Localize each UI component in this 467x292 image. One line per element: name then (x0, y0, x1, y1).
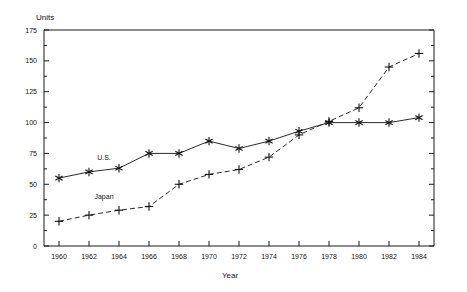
x-axis: 1960196219641966196819701972197419761978… (51, 241, 427, 260)
x-tick-label: 1966 (141, 253, 157, 260)
data-point-japan (265, 153, 273, 161)
y-tick-label: 150 (25, 57, 37, 64)
data-point-japan (85, 211, 93, 219)
series-annotation: U.S. (97, 154, 111, 161)
x-tick-label: 1980 (351, 253, 367, 260)
data-point-japan (115, 206, 123, 214)
x-tick-label: 1974 (261, 253, 277, 260)
series-annotation: Japan (94, 193, 113, 201)
y-tick-label: 50 (29, 181, 37, 188)
line-chart: Units 0255075100125150175 19601962196419… (0, 0, 467, 292)
y-tick-label: 175 (25, 27, 37, 34)
data-point-u-s (55, 174, 62, 182)
y-tick-label: 100 (25, 119, 37, 126)
data-point-japan (205, 170, 213, 178)
data-point-japan (175, 180, 183, 188)
x-tick-label: 1978 (321, 253, 337, 260)
data-point-japan (355, 104, 363, 112)
data-point-japan (385, 63, 393, 71)
x-tick-label: 1984 (411, 253, 427, 260)
data-point-japan (235, 165, 243, 173)
plot-frame (44, 30, 434, 246)
x-tick-label: 1962 (81, 253, 97, 260)
data-point-u-s (265, 137, 272, 145)
x-tick-label: 1960 (51, 253, 67, 260)
y-tick-label: 75 (29, 150, 37, 157)
y-tick-label: 125 (25, 88, 37, 95)
data-point-u-s (205, 137, 212, 145)
y-axis-title: Units (36, 13, 54, 22)
x-tick-label: 1970 (201, 253, 217, 260)
x-tick-label: 1972 (231, 253, 247, 260)
y-tick-label: 0 (33, 243, 37, 250)
x-tick-label: 1964 (111, 253, 127, 260)
data-point-japan (145, 202, 153, 210)
chart-container: Units 0255075100125150175 19601962196419… (0, 0, 467, 292)
x-tick-label: 1968 (171, 253, 187, 260)
x-tick-label: 1976 (291, 253, 307, 260)
y-tick-label: 25 (29, 212, 37, 219)
data-point-japan (55, 217, 63, 225)
x-axis-title: Year (222, 271, 239, 280)
x-tick-label: 1982 (381, 253, 397, 260)
data-point-japan (415, 49, 423, 57)
annotation-layer: U.S.Japan (94, 154, 113, 201)
data-point-u-s (235, 144, 242, 152)
